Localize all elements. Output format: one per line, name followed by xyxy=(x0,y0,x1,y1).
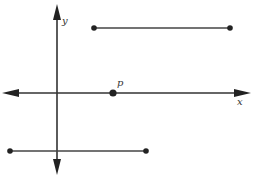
x-axis: x xyxy=(2,89,251,107)
y-axis-label: y xyxy=(61,15,68,26)
lower-segment xyxy=(7,148,149,154)
lower-segment-right-endpoint xyxy=(143,148,149,154)
y-axis: y xyxy=(53,4,68,175)
lower-segment-left-endpoint xyxy=(7,148,13,154)
x-axis-left-arrow-icon xyxy=(2,89,19,97)
point-p-label: p xyxy=(117,77,124,88)
upper-segment-left-endpoint xyxy=(91,25,97,31)
y-axis-down-arrow-icon xyxy=(53,159,61,175)
x-axis-label: x xyxy=(237,96,243,107)
upper-segment-right-endpoint xyxy=(227,25,233,31)
upper-segment xyxy=(91,25,233,31)
coordinate-diagram: y x p xyxy=(0,0,253,177)
y-axis-up-arrow-icon xyxy=(53,4,61,20)
